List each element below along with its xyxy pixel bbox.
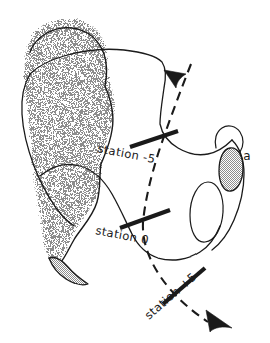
station-label-plus-5: station +5 — [142, 270, 200, 323]
figure-root: a station -5 station 0 station +5 — [0, 0, 270, 343]
station-marker-0[interactable]: station 0 — [94, 210, 170, 247]
arrowhead-bottom — [206, 310, 232, 332]
station-label-minus-5: station -5 — [96, 141, 156, 166]
small-shaded-blob — [219, 148, 243, 191]
blob-annotation-a: a — [243, 149, 250, 163]
sketch-canvas: a station -5 station 0 station +5 — [0, 0, 270, 343]
station-tick-minus-5 — [130, 131, 178, 147]
station-marker-minus-5[interactable]: station -5 — [96, 131, 178, 166]
inner-oval-outline — [190, 182, 223, 242]
